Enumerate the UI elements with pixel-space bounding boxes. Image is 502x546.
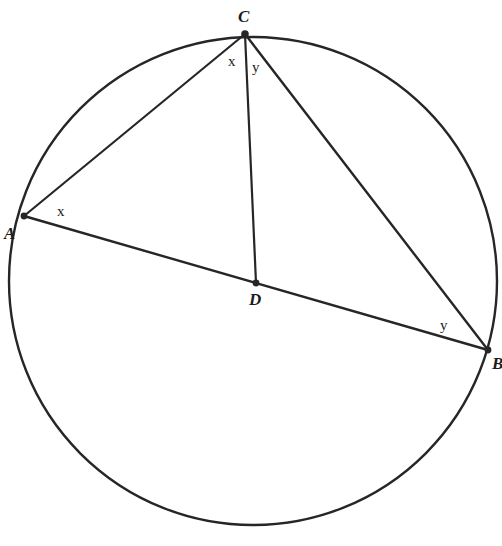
angle-label-y-at-c: y [252, 60, 260, 75]
figure-canvas [0, 0, 502, 546]
angle-label-x-at-c: x [228, 54, 236, 69]
vertex-label-b: B [492, 355, 502, 372]
vertex-dot-b [485, 347, 492, 354]
segment-c-a [24, 34, 245, 216]
vertex-dot-d [253, 280, 260, 287]
segment-c-b [245, 34, 488, 350]
vertex-label-d: D [249, 291, 261, 308]
vertex-dot-a [21, 213, 28, 220]
angle-label-x-at-a: x [57, 204, 65, 219]
geometry-figure: ABCDxyxy [0, 0, 502, 546]
angle-label-y-at-b: y [440, 318, 448, 333]
vertex-label-a: A [4, 225, 15, 242]
vertex-label-c: C [238, 8, 249, 25]
vertex-dot-c [241, 30, 249, 38]
